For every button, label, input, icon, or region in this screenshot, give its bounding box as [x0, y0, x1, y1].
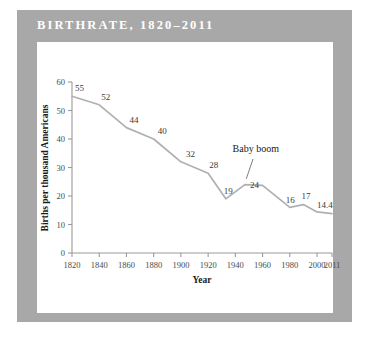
chart-card: [37, 42, 333, 313]
page-title: BIRTHRATE, 1820–2011: [37, 18, 214, 33]
chart-page: BIRTHRATE, 1820–2011 0102030405060 Birth…: [0, 0, 369, 340]
